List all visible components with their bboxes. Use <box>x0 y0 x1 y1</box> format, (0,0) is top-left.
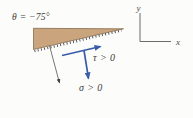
normal-direction-arrow <box>50 46 60 83</box>
stress-wedge-figure: θ = −75° y x τ > 0 σ > 0 <box>0 0 193 118</box>
xy-axes <box>140 13 171 42</box>
x-axis-label: x <box>175 37 180 47</box>
y-axis-label: y <box>136 3 141 13</box>
diagram-canvas: θ = −75° y x τ > 0 σ > 0 <box>0 0 193 118</box>
angle-label: θ = −75° <box>12 12 50 22</box>
wedge <box>34 28 124 49</box>
normal-stress-label: σ > 0 <box>79 82 103 93</box>
normal-stress-arrow <box>84 50 89 78</box>
shear-stress-label: τ > 0 <box>93 52 115 63</box>
